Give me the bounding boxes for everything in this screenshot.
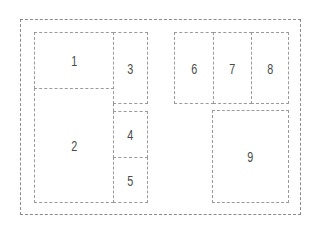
panel-6: 6	[174, 32, 214, 104]
panel-label: 9	[247, 148, 253, 165]
panel-4: 4	[113, 111, 148, 158]
panel-1: 1	[34, 32, 114, 89]
panel-9: 9	[212, 110, 289, 203]
panel-3: 3	[113, 32, 148, 104]
panel-label: 3	[127, 60, 133, 77]
panel-5: 5	[113, 157, 148, 203]
panel-label: 7	[229, 60, 235, 77]
panel-label: 2	[71, 137, 77, 154]
panel-2: 2	[34, 88, 114, 203]
panel-label: 6	[191, 60, 197, 77]
panel-label: 8	[267, 60, 273, 77]
panel-8: 8	[251, 32, 289, 104]
panel-label: 5	[127, 172, 133, 189]
panel-label: 4	[127, 126, 133, 143]
panel-7: 7	[213, 32, 252, 104]
panel-label: 1	[71, 52, 77, 69]
